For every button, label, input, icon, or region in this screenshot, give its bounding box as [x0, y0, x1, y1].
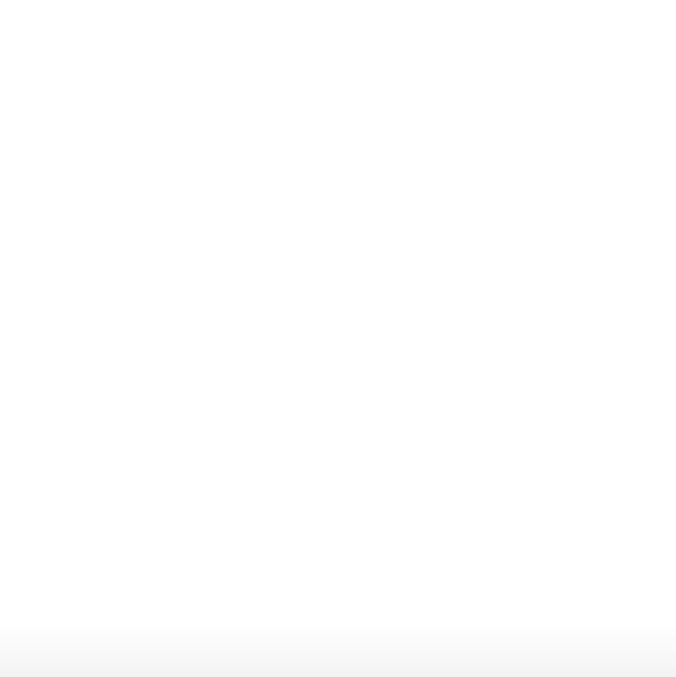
- data-label: 61: [429, 360, 452, 379]
- line-chart-plot: 74 79 61 57 61 62 63 48 48 54 49 4: [40, 43, 637, 636]
- data-label: 42: [611, 452, 634, 471]
- chart-svg: 74 79 61 57 61 62 63 48 48 54 49 4: [40, 43, 637, 636]
- x-tick-year: 2008: [356, 588, 401, 607]
- x-tick-labels: Feb 2008 Mar 2008 Apr 2008 May 2008 Jun …: [95, 566, 535, 607]
- data-label: 54: [609, 407, 632, 426]
- x-tick-month: Apr: [232, 566, 264, 585]
- series-line-registered-voters: [74, 344, 611, 416]
- data-label: 62: [55, 361, 78, 380]
- data-label: 61: [605, 356, 628, 375]
- chart-card: Compared with previous elections, are yo…: [37, 40, 634, 633]
- data-label: 49: [55, 397, 78, 416]
- x-tick-month: Aug: [494, 566, 529, 585]
- data-label: 48: [561, 436, 584, 455]
- x-tick-year: 2008: [95, 588, 140, 607]
- data-label: 74: [55, 316, 78, 335]
- data-label: 57: [557, 383, 580, 402]
- x-tick-year: 2008: [226, 588, 271, 607]
- data-label: 44: [138, 412, 161, 431]
- page-canvas: Compared with previous elections, are yo…: [0, 0, 676, 677]
- data-label: 79: [132, 313, 155, 332]
- data-label: 39: [571, 470, 594, 489]
- x-tick-month: Mar: [166, 566, 201, 585]
- x-tick-year: 2008: [419, 588, 464, 607]
- x-tick-year: 2008: [490, 588, 535, 607]
- x-tick-month: May: [295, 566, 332, 585]
- data-label: 48: [429, 399, 452, 418]
- x-tick-year: 2008: [161, 588, 206, 607]
- x-tick-month: Feb: [101, 566, 134, 585]
- x-tick-year: 2008: [291, 588, 336, 607]
- data-label: 35: [429, 440, 452, 459]
- x-tick-month: Jun: [363, 566, 393, 585]
- data-labels-registered-voters: 74 79 61 57 61: [55, 313, 628, 402]
- data-label: 63: [132, 361, 155, 380]
- x-tick-month: Jul: [429, 566, 453, 585]
